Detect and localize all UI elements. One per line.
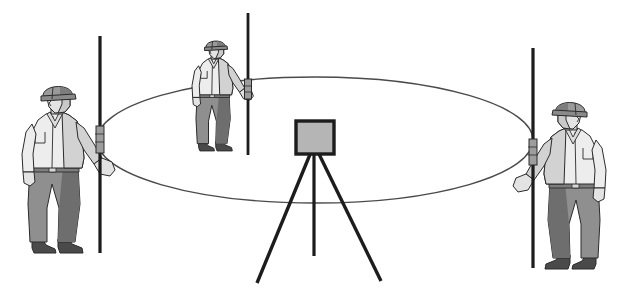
right-rod — [528, 48, 537, 268]
left-rod — [95, 36, 104, 253]
illustration-canvas: .outline, #art path { vector-effect: non… — [0, 0, 628, 296]
center-rod — [244, 13, 252, 155]
right-worker — [513, 103, 606, 269]
right-worker-body — [513, 103, 606, 269]
tripod-left-leg — [257, 152, 311, 283]
surveying-scene-illustration: .outline, #art path { vector-effect: non… — [0, 0, 628, 296]
center-rod-clamp — [245, 79, 252, 99]
right-rod-clamp — [529, 139, 537, 165]
left-rod-clamp — [96, 126, 104, 153]
tripod-right-leg — [318, 152, 381, 281]
instrument-head — [296, 121, 334, 154]
